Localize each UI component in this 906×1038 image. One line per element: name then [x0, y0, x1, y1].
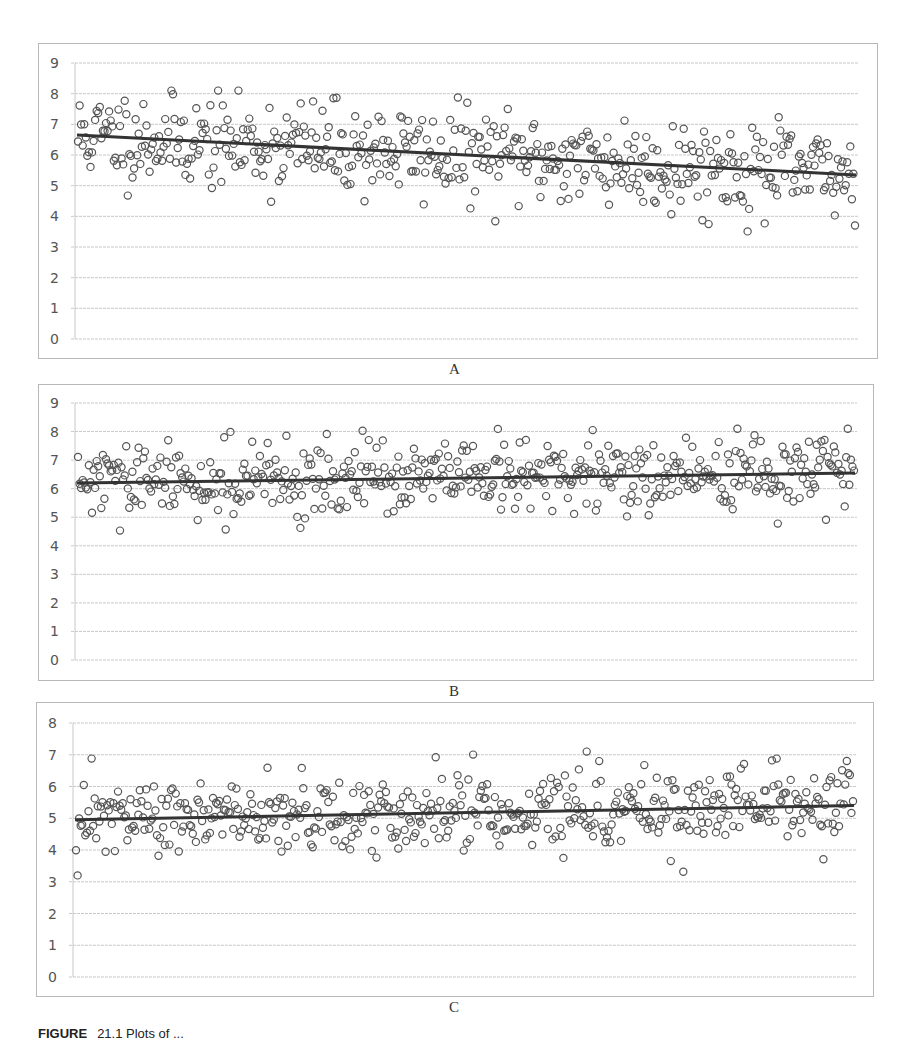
- data-point: [182, 465, 189, 472]
- data-point: [779, 443, 786, 450]
- data-point: [650, 442, 657, 449]
- data-point: [210, 164, 217, 171]
- data-point: [712, 452, 719, 459]
- data-point: [753, 133, 760, 140]
- data-point: [844, 159, 851, 166]
- data-point: [260, 172, 267, 179]
- data-point: [571, 510, 578, 517]
- data-point: [637, 188, 644, 195]
- data-point: [789, 189, 796, 196]
- data-point: [213, 127, 220, 134]
- data-point: [123, 443, 130, 450]
- data-point: [465, 776, 472, 783]
- data-point: [155, 852, 162, 859]
- data-point: [515, 203, 522, 210]
- data-point: [178, 828, 185, 835]
- data-point: [842, 781, 849, 788]
- data-point: [111, 848, 118, 855]
- data-point: [365, 437, 372, 444]
- data-point: [129, 174, 136, 181]
- data-point: [263, 146, 270, 153]
- data-point: [460, 847, 467, 854]
- data-point: [174, 144, 181, 151]
- data-point: [614, 789, 621, 796]
- data-point: [518, 467, 525, 474]
- data-point: [666, 191, 673, 198]
- data-point: [101, 495, 108, 502]
- data-point: [168, 464, 175, 471]
- y-tick-label: 2: [48, 906, 57, 922]
- panel-label-c: C: [449, 999, 459, 1016]
- data-point: [787, 776, 794, 783]
- data-point: [106, 108, 113, 115]
- data-point: [534, 141, 541, 148]
- data-point: [474, 822, 481, 829]
- data-point: [281, 467, 288, 474]
- data-point: [123, 111, 130, 118]
- data-point: [298, 492, 305, 499]
- data-point: [382, 788, 389, 795]
- data-point: [543, 493, 550, 500]
- data-point: [751, 432, 758, 439]
- data-point: [347, 846, 354, 853]
- data-point: [454, 94, 461, 101]
- data-point: [396, 801, 403, 808]
- data-point: [549, 507, 556, 514]
- data-point: [166, 502, 173, 509]
- data-point: [102, 848, 109, 855]
- data-point: [520, 147, 527, 154]
- data-point: [481, 157, 488, 164]
- data-point: [741, 153, 748, 160]
- data-point: [96, 473, 103, 480]
- data-point: [536, 787, 543, 794]
- data-point: [325, 455, 332, 462]
- data-point: [91, 795, 98, 802]
- data-point: [691, 173, 698, 180]
- data-point: [749, 124, 756, 131]
- data-point: [560, 183, 567, 190]
- data-point: [454, 458, 461, 465]
- data-point: [446, 464, 453, 471]
- y-tick-label: 3: [48, 874, 57, 890]
- data-point: [283, 114, 290, 121]
- data-point: [431, 825, 438, 832]
- data-point: [630, 145, 637, 152]
- data-point: [592, 507, 599, 514]
- data-point: [165, 437, 172, 444]
- data-point: [193, 105, 200, 112]
- caption-prefix: FIGURE: [38, 1026, 87, 1038]
- data-point: [511, 505, 518, 512]
- data-point: [255, 148, 262, 155]
- data-point: [757, 437, 764, 444]
- data-point: [801, 455, 808, 462]
- data-point: [146, 168, 153, 175]
- data-point: [415, 468, 422, 475]
- data-point: [762, 483, 769, 490]
- data-point: [219, 102, 226, 109]
- data-point: [722, 831, 729, 838]
- data-point: [115, 106, 122, 113]
- data-point: [98, 505, 105, 512]
- data-point: [667, 491, 674, 498]
- data-point: [286, 150, 293, 157]
- data-point: [756, 153, 763, 160]
- data-point: [560, 854, 567, 861]
- data-point: [121, 97, 128, 104]
- data-point: [443, 156, 450, 163]
- data-point: [664, 464, 671, 471]
- data-point: [496, 842, 503, 849]
- data-point: [622, 453, 629, 460]
- data-point: [286, 496, 293, 503]
- data-point: [331, 837, 338, 844]
- y-tick-label: 9: [50, 395, 59, 411]
- data-point: [369, 177, 376, 184]
- data-point: [583, 500, 590, 507]
- data-point: [664, 778, 671, 785]
- data-point: [504, 105, 511, 112]
- data-point: [456, 782, 463, 789]
- data-point: [744, 228, 751, 235]
- data-point: [777, 127, 784, 134]
- y-tick-label: 4: [50, 538, 59, 554]
- data-point: [246, 115, 253, 122]
- y-tick-label: 1: [48, 937, 57, 953]
